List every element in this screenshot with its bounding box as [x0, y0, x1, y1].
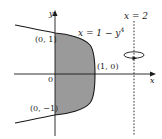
curve-equation-text: x = 1 − y	[78, 28, 120, 38]
axis-of-rotation-label: x = 2	[124, 12, 148, 21]
diagram: y x 0 (0, 1) (1, 0) (0, −1) x = 1 − y4 x…	[0, 0, 162, 139]
point-label-0-neg1: (0, −1)	[30, 105, 58, 113]
y-axis-label: y	[49, 10, 54, 18]
x-axis-label: x	[150, 77, 155, 85]
point-label-1-0: (1, 0)	[97, 63, 119, 71]
origin-label: 0	[48, 76, 53, 84]
curve-equation-exponent: 4	[120, 26, 124, 33]
curve-equation-label: x = 1 − y4	[78, 27, 124, 38]
point-label-0-1: (0, 1)	[35, 36, 57, 44]
